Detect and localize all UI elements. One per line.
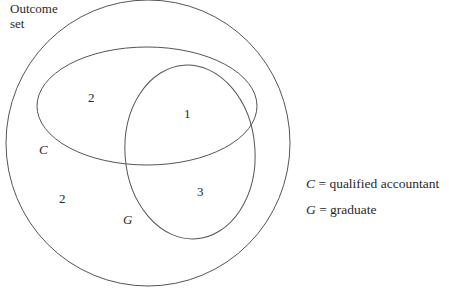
legend-text-c: = qualified accountant xyxy=(315,176,439,191)
legend-text-g: = graduate xyxy=(316,202,377,217)
set-c-label: C xyxy=(39,143,48,157)
region-c-only-count: 2 xyxy=(88,91,95,105)
region-neither-count: 2 xyxy=(59,192,66,206)
set-g-ellipse xyxy=(119,61,261,244)
legend-item-g: G = graduate xyxy=(306,202,377,218)
region-g-only-count: 3 xyxy=(197,185,204,199)
venn-diagram xyxy=(0,0,449,304)
set-g-label: G xyxy=(123,213,132,227)
legend-item-c: C = qualified accountant xyxy=(306,176,439,192)
legend-symbol-c: C xyxy=(306,176,315,191)
set-c-ellipse xyxy=(37,47,257,165)
outcome-set-label-line2: set xyxy=(10,17,24,31)
legend-symbol-g: G xyxy=(306,202,316,217)
outcome-set-label-line1: Outcome xyxy=(10,2,58,16)
region-c-and-g-count: 1 xyxy=(184,107,191,121)
outcome-set-circle xyxy=(6,0,290,286)
